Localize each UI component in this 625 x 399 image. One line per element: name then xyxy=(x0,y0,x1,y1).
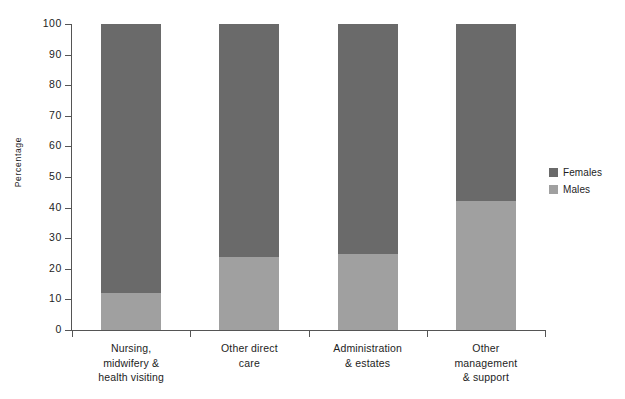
y-tick-mark xyxy=(65,269,72,270)
bar-group xyxy=(219,24,279,330)
legend-item[interactable]: Females xyxy=(549,166,623,179)
y-tick-mark xyxy=(65,85,72,86)
x-category-label-line: & estates xyxy=(308,356,428,371)
y-tick-label: 80 xyxy=(22,79,62,90)
x-category-label: Other directcare xyxy=(189,341,309,370)
y-tick-mark xyxy=(65,177,72,178)
bar-group xyxy=(456,24,516,330)
y-axis-title: Percentage xyxy=(13,127,23,197)
x-tick-mark xyxy=(190,330,191,337)
y-tick-mark xyxy=(65,55,72,56)
y-tick-label: 20 xyxy=(22,263,62,274)
y-tick-label: 90 xyxy=(22,49,62,60)
y-tick-label: 30 xyxy=(22,232,62,243)
y-tick-mark xyxy=(65,208,72,209)
x-category-label-line: Nursing, xyxy=(71,341,191,356)
x-category-label-line: Other direct xyxy=(189,341,309,356)
y-tick-label: 0 xyxy=(22,324,62,335)
bar-segment-males xyxy=(101,293,161,330)
x-category-label-line: Other xyxy=(426,341,546,356)
legend-swatch-icon xyxy=(549,185,558,194)
bar-group xyxy=(338,24,398,330)
x-category-label-line: management xyxy=(426,356,546,371)
chart-legend: FemalesMales xyxy=(549,166,623,200)
y-tick-label: 100 xyxy=(22,18,62,29)
x-category-label: Nursing,midwifery &health visiting xyxy=(71,341,191,385)
x-category-label-line: midwifery & xyxy=(71,356,191,371)
x-category-label-line: health visiting xyxy=(71,370,191,385)
x-category-label-line: & support xyxy=(426,370,546,385)
y-tick-mark xyxy=(65,116,72,117)
x-category-label: Othermanagement& support xyxy=(426,341,546,385)
y-tick-mark xyxy=(65,238,72,239)
y-tick-label: 10 xyxy=(22,293,62,304)
stacked-bar-chart: Percentage 0102030405060708090100 Nursin… xyxy=(0,0,625,399)
x-tick-mark xyxy=(72,330,73,337)
y-tick-label: 50 xyxy=(22,171,62,182)
bar-segment-females xyxy=(101,24,161,293)
x-category-label-line: care xyxy=(189,356,309,371)
bar-segment-females xyxy=(338,24,398,254)
y-tick-mark xyxy=(65,146,72,147)
x-tick-mark xyxy=(309,330,310,337)
y-tick-mark xyxy=(65,299,72,300)
bar-segment-males xyxy=(456,201,516,330)
y-tick-label: 60 xyxy=(22,140,62,151)
bar-group xyxy=(101,24,161,330)
bar-segment-males xyxy=(219,257,279,330)
bar-segment-males xyxy=(338,254,398,331)
legend-label: Males xyxy=(563,185,590,195)
y-tick-label: 40 xyxy=(22,202,62,213)
x-category-label: Administration& estates xyxy=(308,341,428,370)
legend-swatch-icon xyxy=(549,168,558,177)
x-tick-mark xyxy=(427,330,428,337)
x-tick-mark xyxy=(545,330,546,337)
bar-segment-females xyxy=(219,24,279,257)
y-tick-mark xyxy=(65,24,72,25)
legend-label: Females xyxy=(563,168,602,178)
y-tick-mark xyxy=(65,330,72,331)
y-tick-label: 70 xyxy=(22,110,62,121)
x-category-label-line: Administration xyxy=(308,341,428,356)
legend-item[interactable]: Males xyxy=(549,183,623,196)
bar-segment-females xyxy=(456,24,516,201)
plot-area xyxy=(72,24,545,330)
